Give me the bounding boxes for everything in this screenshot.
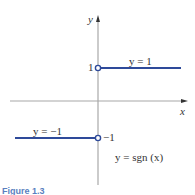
x-axis-arrow-icon bbox=[181, 99, 188, 103]
tick-label-pos: 1 bbox=[88, 62, 94, 73]
open-endpoint-upper bbox=[95, 65, 100, 70]
y-axis-arrow-icon bbox=[96, 15, 100, 22]
lower-line-label: y = −1 bbox=[33, 126, 62, 137]
x-axis-label: x bbox=[180, 106, 185, 117]
y-axis-label: y bbox=[88, 14, 93, 25]
upper-line-label: y = 1 bbox=[129, 56, 152, 67]
open-endpoint-lower bbox=[95, 135, 100, 140]
sign-function-plot bbox=[0, 0, 195, 195]
figure-caption: Figure 1.3 bbox=[2, 186, 45, 195]
function-label: y = sgn (x) bbox=[115, 152, 163, 163]
tick-label-neg: −1 bbox=[103, 132, 115, 143]
